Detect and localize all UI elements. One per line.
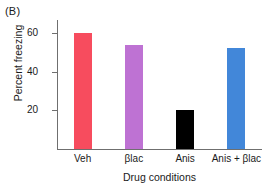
bar (176, 110, 194, 149)
y-axis-title: Percent freezing (12, 11, 24, 115)
x-axis-title: Drug conditions (57, 171, 262, 183)
bar (74, 33, 92, 149)
bar (227, 48, 245, 149)
bar-series (57, 20, 262, 149)
figure-panel: (B) 204060 Percent freezing Drug conditi… (0, 0, 267, 189)
x-tick-label: Anis + βlac (186, 153, 267, 164)
bar (125, 45, 143, 149)
x-axis-line (57, 149, 262, 150)
